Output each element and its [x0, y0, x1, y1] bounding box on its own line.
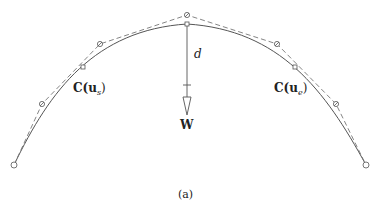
weight-arrow — [183, 26, 191, 115]
curve-points — [81, 22, 297, 69]
control-point-icon — [363, 162, 369, 168]
distance-label: d — [194, 47, 202, 61]
weight-label: W — [179, 118, 194, 132]
curve-point-start-icon — [81, 65, 85, 69]
control-point-icon — [11, 162, 17, 168]
control-polygon — [14, 15, 366, 165]
figure-caption: (a) — [178, 188, 193, 201]
start-point-label: C(us) — [73, 81, 106, 97]
control-points — [11, 12, 369, 168]
spline-curve — [14, 24, 366, 165]
curve-point-peak-icon — [185, 22, 189, 26]
figure: d C(us) C(ue) W (a) — [0, 0, 377, 213]
arrow-head-icon — [183, 97, 191, 115]
curve-point-end-icon — [293, 65, 297, 69]
end-point-label: C(ue) — [274, 81, 307, 97]
